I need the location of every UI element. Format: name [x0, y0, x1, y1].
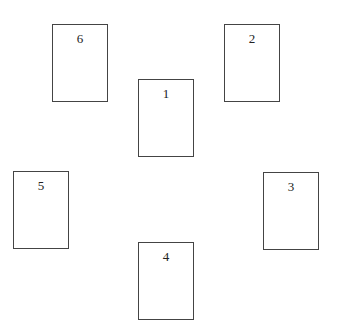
card-position-2: 2: [224, 24, 280, 102]
card-number-label: 1: [139, 87, 193, 100]
card-position-6: 6: [52, 24, 108, 102]
diagram-canvas: 6 2 1 5 3 4: [0, 0, 337, 323]
card-number-label: 6: [53, 32, 107, 45]
card-number-label: 5: [14, 179, 68, 192]
card-position-1: 1: [138, 79, 194, 157]
card-position-5: 5: [13, 171, 69, 249]
card-position-4: 4: [138, 242, 194, 320]
card-number-label: 3: [264, 180, 318, 193]
card-number-label: 2: [225, 32, 279, 45]
card-number-label: 4: [139, 250, 193, 263]
card-position-3: 3: [263, 172, 319, 250]
